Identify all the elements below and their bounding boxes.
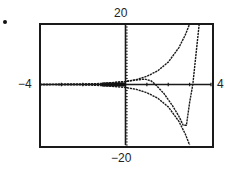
graph-plot-area [0, 0, 227, 175]
curve-oscillating [40, 24, 199, 125]
curve-lower-envelope [40, 85, 190, 145]
curve-upper-envelope [40, 24, 190, 84]
